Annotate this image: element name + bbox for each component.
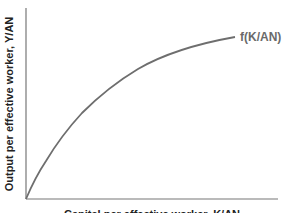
y-axis-label: Output per effective worker, Y/AN	[3, 17, 15, 192]
production-function-chart: f(K/AN) Output per effective worker, Y/A…	[0, 0, 287, 213]
curve-label: f(K/AN)	[240, 30, 281, 44]
x-axis-label: Capital per effective worker, K/AN	[64, 208, 240, 213]
production-function-curve	[26, 37, 235, 199]
